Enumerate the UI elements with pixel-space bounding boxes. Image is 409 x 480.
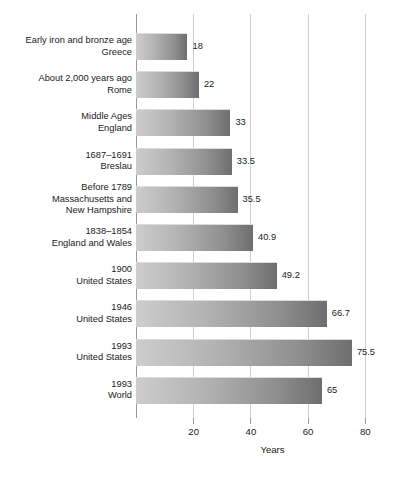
bar (136, 33, 187, 60)
bar-chart: Early iron and bronze age Greece18About … (0, 0, 409, 480)
bar-value-label: 22 (204, 71, 214, 98)
bar-row-label: 1687–1691 Breslau (0, 150, 132, 173)
bar-row-label: 1993 World (0, 379, 132, 402)
bar-row: Early iron and bronze age Greece18 (0, 33, 409, 71)
bar-row: 1900 United States49.2 (0, 262, 409, 300)
x-tick-label-20: 20 (174, 426, 214, 437)
bar-row-label: 1900 United States (0, 264, 132, 287)
bar (136, 339, 352, 366)
bar (136, 224, 253, 251)
bar-row-label: 1838–1854 England and Wales (0, 226, 132, 249)
bar-value-label: 33 (235, 109, 245, 136)
bar-row-label: About 2,000 years ago Rome (0, 73, 132, 96)
bar-value-label: 40.9 (258, 224, 276, 251)
bar (136, 109, 230, 136)
bar-row: 1993 United States75.5 (0, 339, 409, 377)
bar (136, 71, 199, 98)
bar (136, 262, 277, 289)
bar-value-label: 35.5 (243, 186, 261, 213)
x-tick-80 (365, 418, 366, 424)
bar-row: About 2,000 years ago Rome22 (0, 71, 409, 109)
bar (136, 148, 232, 175)
x-axis-title-text: Years (260, 444, 284, 455)
bar-row-label: 1946 United States (0, 302, 132, 325)
bar-row: Before 1789 Massachusetts and New Hampsh… (0, 186, 409, 224)
bar-value-label: 49.2 (282, 262, 300, 289)
bar-value-label: 75.5 (357, 339, 375, 366)
bar (136, 186, 238, 213)
bar (136, 377, 322, 404)
bar-value-label: 66.7 (332, 300, 350, 327)
x-tick-40 (250, 418, 251, 424)
bar-value-label: 18 (192, 33, 202, 60)
x-tick-label-40: 40 (231, 426, 271, 437)
bar-row-label: Early iron and bronze age Greece (0, 35, 132, 58)
bar-row: 1687–1691 Breslau33.5 (0, 148, 409, 186)
bar-value-label: 65 (327, 377, 337, 404)
bar-value-label: 33.5 (237, 148, 255, 175)
x-tick-20 (193, 418, 194, 424)
bar-row-label: Before 1789 Massachusetts and New Hampsh… (0, 182, 132, 216)
bar (136, 300, 327, 327)
bar-row-label: Middle Ages England (0, 111, 132, 134)
bar-row: 1993 World65 (0, 377, 409, 415)
bar-row-label: 1993 United States (0, 341, 132, 364)
x-axis-title: Years (0, 444, 409, 455)
x-tick-label-80: 80 (345, 426, 385, 437)
x-tick-label-60: 60 (288, 426, 328, 437)
bar-row: 1946 United States66.7 (0, 300, 409, 338)
bar-row: 1838–1854 England and Wales40.9 (0, 224, 409, 262)
bar-row: Middle Ages England33 (0, 109, 409, 147)
x-tick-60 (308, 418, 309, 424)
